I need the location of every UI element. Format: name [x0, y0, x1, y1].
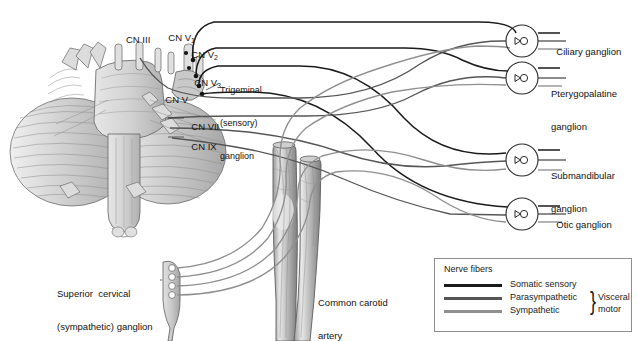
label-cn-v: CN V: [160, 83, 188, 105]
superior-cervical-ganglion-illustration: [163, 261, 180, 341]
visceral-motor-label-line-1: Visceral: [598, 292, 630, 302]
legend-swatch-parasympathetic: [444, 297, 502, 300]
legend-title: Nerve fibers: [444, 264, 493, 274]
legend-swatch-sympathetic: [444, 310, 502, 313]
label-cn-ix: CN IX: [186, 130, 217, 152]
visceral-motor-label-line-2: motor: [598, 304, 621, 314]
legend-swatch-somatic-sensory: [444, 284, 502, 287]
label-pterygopalatine-ganglion: Pterygopalatine ganglion: [551, 66, 617, 143]
carotid-line-1: Common carotid: [318, 297, 388, 308]
ciliary-ganglion-symbol: [506, 25, 538, 57]
label-ciliary-ganglion: Ciliary ganglion: [551, 35, 621, 57]
legend-label-sympathetic: Sympathetic: [510, 305, 560, 315]
label-otic-ganglion: Otic ganglion: [551, 208, 612, 230]
common-carotid-artery-illustration: [272, 142, 321, 341]
label-cn-vii: CN VII: [186, 110, 219, 132]
submandibular-ganglion-symbol: [506, 144, 538, 176]
ptg-line-2: ganglion: [551, 121, 617, 132]
trigeminal-line-3: ganglion: [220, 151, 262, 162]
legend-label-somatic-sensory: Somatic sensory: [510, 279, 577, 289]
smg-line-1: Submandibular: [551, 170, 615, 181]
scg-line-2: (sympathetic) ganglion: [57, 321, 153, 332]
subscript-2: 2: [214, 54, 218, 61]
legend-label-parasympathetic: Parasympathetic: [510, 292, 577, 302]
ganglion-symbols: [506, 25, 538, 230]
diagram-canvas: CN III CN V1 CN V2 CN V CN V3 CN VII CN …: [0, 0, 637, 341]
carotid-line-2: artery: [318, 330, 388, 341]
trigeminal-line-2: (sensory): [220, 118, 262, 129]
trigeminal-line-1: Trigeminal: [220, 85, 262, 96]
pterygopalatine-ganglion-symbol: [506, 62, 538, 94]
scg-line-1: Superior cervical: [57, 288, 153, 299]
label-superior-cervical-ganglion: Superior cervical (sympathetic) ganglion: [57, 266, 153, 341]
label-common-carotid-artery: Common carotid artery: [318, 275, 388, 341]
visceral-motor-brace: }: [590, 288, 596, 314]
label-cn-v3: CN V3: [189, 66, 221, 91]
label-cn-v2: CN V2: [186, 38, 218, 63]
ptg-line-1: Pterygopalatine: [551, 88, 617, 99]
label-trigeminal-ganglion: Trigeminal (sensory) ganglion: [220, 63, 262, 173]
otic-ganglion-symbol: [506, 198, 538, 230]
label-cn-iii: CN III: [126, 34, 150, 45]
